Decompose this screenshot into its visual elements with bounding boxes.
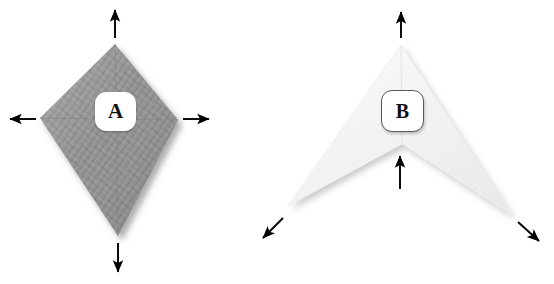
- figure-graphics: [0, 0, 554, 284]
- figure-canvas: A B: [0, 0, 554, 284]
- shape-label-badge-b: B: [381, 90, 424, 132]
- shape-a-kite-shading: [40, 44, 178, 236]
- arrow-b-down-right: [518, 222, 539, 241]
- shape-label-b-text: B: [396, 101, 409, 121]
- arrow-b-down-left: [263, 218, 283, 238]
- shape-a-group: [40, 44, 178, 236]
- shape-label-badge-a: A: [95, 92, 136, 131]
- shape-label-a-text: A: [108, 101, 123, 122]
